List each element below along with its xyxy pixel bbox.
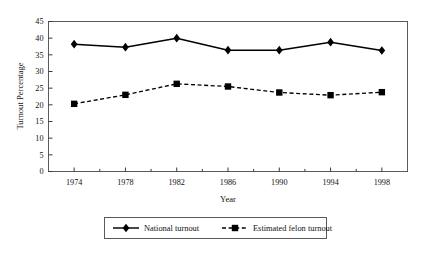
data-point-square bbox=[174, 81, 180, 87]
y-tick-label: 25 bbox=[35, 84, 43, 93]
data-point-diamond bbox=[327, 38, 334, 47]
y-tick-label: 15 bbox=[35, 117, 43, 126]
legend-label-1: National turnout bbox=[144, 224, 200, 233]
y-tick-label: 0 bbox=[39, 167, 43, 176]
data-point-diamond bbox=[122, 43, 129, 52]
y-tick-label: 45 bbox=[35, 17, 43, 26]
x-axis: 1974197819821986199019941998 bbox=[66, 168, 390, 187]
data-point-square bbox=[225, 83, 231, 89]
legend-label-2: Estimated felon turnout bbox=[253, 224, 333, 233]
plot-area-frame bbox=[49, 22, 408, 172]
data-point-diamond bbox=[379, 46, 386, 55]
turnout-line-chart: 051015202530354045 197419781982198619901… bbox=[0, 0, 422, 253]
data-point-square bbox=[379, 89, 385, 95]
data-point-square bbox=[276, 89, 282, 95]
x-tick-label: 1982 bbox=[169, 178, 185, 187]
x-tick-label: 1994 bbox=[322, 178, 338, 187]
x-tick-label: 1986 bbox=[220, 178, 236, 187]
x-tick-label: 1990 bbox=[271, 178, 287, 187]
legend-marker-square bbox=[232, 225, 238, 231]
data-point-square bbox=[122, 92, 128, 98]
y-tick-label: 30 bbox=[35, 67, 43, 76]
chart-legend: National turnoutEstimated felon turnout bbox=[105, 218, 333, 239]
x-tick-label: 1974 bbox=[66, 178, 82, 187]
x-axis-title: Year bbox=[220, 194, 236, 204]
y-axis-title: Turnout Percentage bbox=[15, 62, 25, 129]
y-axis: 051015202530354045 bbox=[35, 17, 52, 176]
data-point-square bbox=[327, 92, 333, 98]
data-point-square bbox=[71, 101, 77, 107]
data-point-diamond bbox=[276, 46, 283, 55]
data-point-diamond bbox=[225, 46, 232, 55]
y-tick-label: 10 bbox=[35, 134, 43, 143]
data-series-group bbox=[71, 34, 385, 107]
x-tick-label: 1978 bbox=[117, 178, 133, 187]
y-tick-label: 5 bbox=[39, 151, 43, 160]
chart-figure: 051015202530354045 197419781982198619901… bbox=[0, 0, 422, 253]
y-tick-label: 20 bbox=[35, 101, 43, 110]
y-tick-label: 40 bbox=[35, 34, 43, 43]
x-tick-label: 1998 bbox=[374, 178, 390, 187]
y-tick-label: 35 bbox=[35, 51, 43, 60]
data-point-diamond bbox=[173, 34, 180, 43]
data-point-diamond bbox=[71, 40, 78, 49]
